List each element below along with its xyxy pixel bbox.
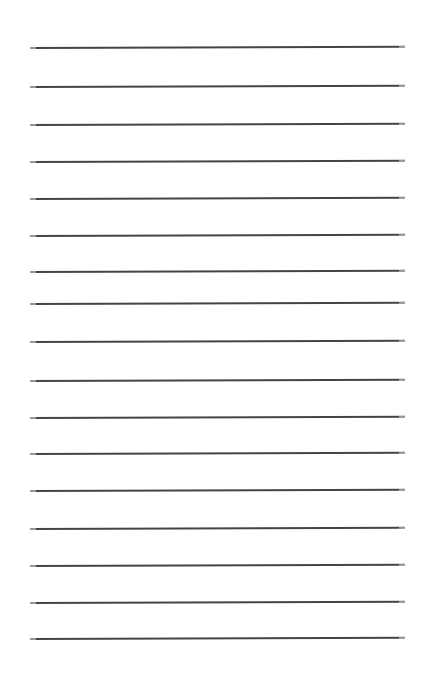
ruled-line	[30, 527, 405, 530]
ruled-paper-sheet	[0, 0, 422, 685]
ruled-line	[30, 489, 405, 492]
ruled-line	[30, 601, 405, 604]
ruled-line	[30, 46, 405, 49]
ruled-line	[30, 85, 405, 88]
ruled-line	[30, 564, 405, 567]
ruled-line	[30, 234, 405, 237]
ruled-line	[30, 416, 405, 419]
ruled-line	[30, 302, 405, 305]
ruled-line	[30, 452, 405, 455]
ruled-line	[30, 197, 405, 200]
ruled-line	[30, 637, 405, 640]
ruled-line	[30, 160, 405, 163]
ruled-line	[30, 340, 405, 343]
ruled-line	[30, 270, 405, 273]
ruled-line	[30, 123, 405, 126]
ruled-line	[30, 379, 405, 382]
